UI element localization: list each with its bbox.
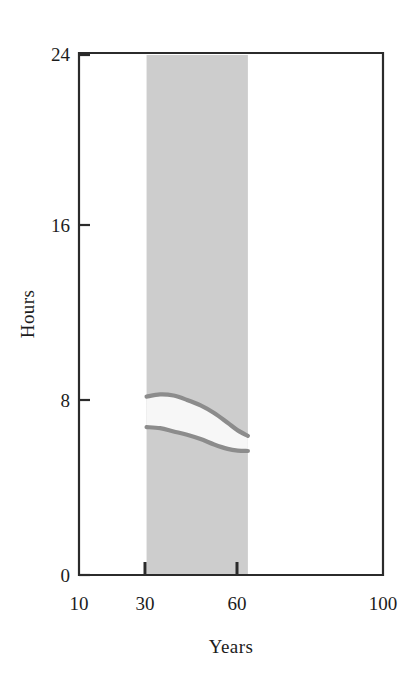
y-tick-label-24: 24: [51, 44, 71, 65]
y-axis-title: Hours: [17, 290, 38, 338]
x-tick-label-10: 10: [70, 593, 89, 614]
hours-vs-years-area-chart: 24 16 8 0 10 30 60 100 Hours Years: [0, 0, 416, 696]
y-tick-label-0: 0: [61, 565, 71, 586]
shaded-year-band: [147, 55, 248, 575]
y-tick-label-16: 16: [51, 215, 70, 236]
x-tick-label-30: 30: [136, 593, 155, 614]
x-tick-label-60: 60: [228, 593, 247, 614]
chart-figure: 24 16 8 0 10 30 60 100 Hours Years: [0, 0, 416, 696]
x-tick-label-100: 100: [369, 593, 398, 614]
x-axis-title: Years: [209, 636, 253, 657]
y-tick-label-8: 8: [61, 390, 71, 411]
